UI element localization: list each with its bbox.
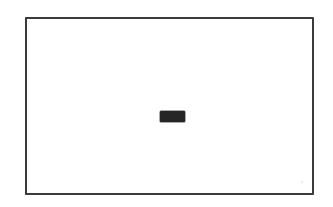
center-button[interactable] (160, 111, 185, 122)
pencil-speck (301, 181, 303, 183)
wireframe-screen-frame (25, 17, 314, 195)
